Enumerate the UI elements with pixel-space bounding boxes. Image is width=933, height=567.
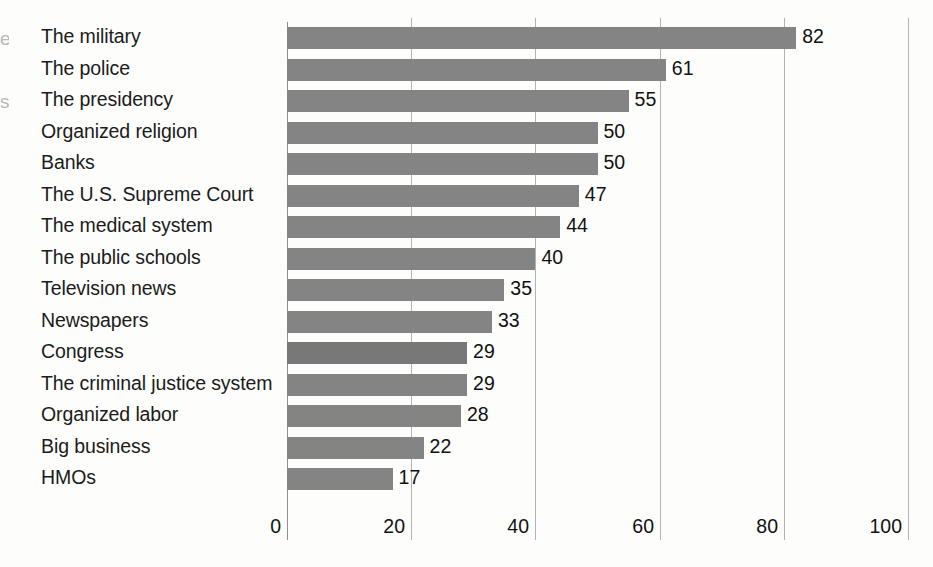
- bar-chart: es The military82The police61The preside…: [0, 0, 933, 567]
- bar-value-label: 40: [541, 246, 563, 268]
- bar-row: Congress29: [0, 337, 933, 369]
- bar-row: Banks50: [0, 148, 933, 180]
- bar-row: Organized religion50: [0, 117, 933, 149]
- x-tick-label: 100: [869, 515, 908, 537]
- bar-value-label: 28: [467, 403, 489, 425]
- bar-value-label: 29: [473, 372, 495, 394]
- bar: [287, 27, 796, 49]
- bar: [287, 437, 424, 459]
- category-label: Big business: [41, 435, 150, 457]
- bar: [287, 342, 467, 364]
- category-label: The medical system: [41, 214, 213, 236]
- x-tick-label: 80: [756, 515, 784, 537]
- x-tick-label: 20: [383, 515, 411, 537]
- bar-value-label: 50: [604, 120, 626, 142]
- category-label: Organized labor: [41, 403, 178, 425]
- bar-value-label: 55: [635, 88, 657, 110]
- bar-row: The presidency55: [0, 85, 933, 117]
- bar-row: The medical system44: [0, 211, 933, 243]
- category-label: Television news: [41, 277, 176, 299]
- category-label: The police: [41, 57, 130, 79]
- bar: [287, 374, 467, 396]
- category-label: The criminal justice system: [41, 372, 272, 394]
- bar: [287, 311, 492, 333]
- bar-row: The criminal justice system29: [0, 369, 933, 401]
- category-label: Newspapers: [41, 309, 148, 331]
- category-label: The public schools: [41, 246, 201, 268]
- bar-value-label: 44: [566, 214, 588, 236]
- bar-row: Organized labor28: [0, 400, 933, 432]
- category-label: Congress: [41, 340, 124, 362]
- x-tick-label: 40: [507, 515, 535, 537]
- bar: [287, 153, 598, 175]
- bar-value-label: 47: [585, 183, 607, 205]
- category-label: HMOs: [41, 466, 96, 488]
- bar: [287, 248, 535, 270]
- bar: [287, 279, 504, 301]
- bar: [287, 90, 629, 112]
- bar: [287, 405, 461, 427]
- bar-value-label: 22: [430, 435, 452, 457]
- x-tick-label: 0: [270, 515, 287, 537]
- bar-rows: The military82The police61The presidency…: [0, 0, 933, 510]
- bar-row: Big business22: [0, 432, 933, 464]
- category-label: Banks: [41, 151, 95, 173]
- bar-row: The military82: [0, 22, 933, 54]
- bar: [287, 216, 560, 238]
- category-label: The military: [41, 25, 141, 47]
- bar-row: The police61: [0, 54, 933, 86]
- bar: [287, 468, 393, 490]
- bar-row: The U.S. Supreme Court47: [0, 180, 933, 212]
- x-axis: 020406080100: [0, 505, 933, 567]
- category-label: Organized religion: [41, 120, 197, 142]
- bar: [287, 185, 579, 207]
- category-label: The U.S. Supreme Court: [41, 183, 253, 205]
- bar-value-label: 35: [510, 277, 532, 299]
- bar-row: Newspapers33: [0, 306, 933, 338]
- x-tick-label: 60: [632, 515, 660, 537]
- bar-row: Television news35: [0, 274, 933, 306]
- bar-value-label: 61: [672, 57, 694, 79]
- category-label: The presidency: [41, 88, 173, 110]
- bar-row: The public schools40: [0, 243, 933, 275]
- bar-value-label: 29: [473, 340, 495, 362]
- bar-value-label: 17: [399, 466, 421, 488]
- bar-value-label: 50: [604, 151, 626, 173]
- bar: [287, 122, 598, 144]
- bar: [287, 59, 666, 81]
- bar-value-label: 33: [498, 309, 520, 331]
- bar-value-label: 82: [802, 25, 824, 47]
- bar-row: HMOs17: [0, 463, 933, 495]
